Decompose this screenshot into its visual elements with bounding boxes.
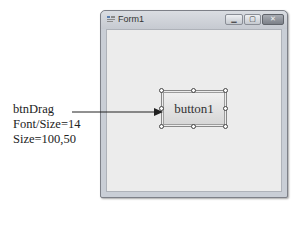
annotation-line-name: btnDrag	[13, 102, 80, 117]
annotation-line-font: Font/Size=14	[13, 117, 80, 132]
annotation-line-size: Size=100,50	[13, 132, 80, 147]
annotation-text: btnDrag Font/Size=14 Size=100,50	[13, 102, 80, 147]
